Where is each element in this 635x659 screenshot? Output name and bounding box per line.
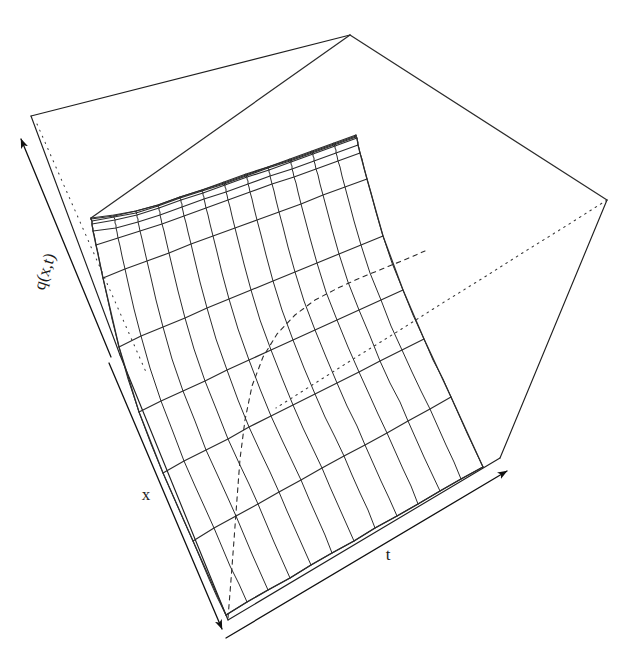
surface-plot-canvas: q(x,t) x t [0, 0, 635, 659]
surface-front-boundary [226, 467, 483, 615]
axis-labels: q(x,t) x t [30, 251, 391, 564]
z-axis-label: q(x,t) [30, 251, 60, 292]
bounding-box-frame [31, 35, 607, 620]
perspective-surface-figure: q(x,t) x t [0, 0, 635, 659]
surface-wireframe-mesh [91, 35, 607, 615]
t-axis-label: t [386, 545, 391, 564]
box-edge-back-left-top [31, 35, 350, 116]
x-axis-ray [109, 363, 222, 629]
surface-left-boundary [91, 218, 226, 615]
t-axis-ray [226, 471, 507, 638]
z-axis-ray [21, 139, 111, 357]
surface-right-boundary [356, 135, 483, 467]
box-edge-hidden-dotted-z [37, 124, 146, 372]
dashed-contour-line [228, 251, 425, 618]
surface-crest-edge [91, 35, 607, 218]
box-edge-base-right [228, 458, 500, 620]
box-edge-left-vertical [31, 116, 120, 355]
surface-t-lines [91, 135, 483, 615]
axis-rays [21, 139, 507, 638]
contour-path [228, 251, 425, 618]
x-axis-label: x [142, 485, 151, 504]
box-edge-right-vertical [500, 200, 607, 458]
